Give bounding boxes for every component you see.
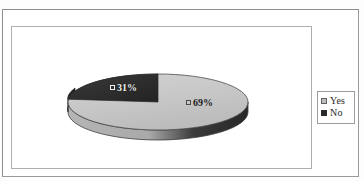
pie-chart: 31% 69%	[65, 64, 251, 144]
legend-item-no: No	[321, 107, 350, 119]
legend-swatch-yes-icon	[321, 98, 327, 104]
legend-item-yes: Yes	[321, 95, 350, 107]
legend-swatch-no-icon	[321, 110, 327, 116]
figure-outer-frame: 31% 69% Yes No	[2, 9, 359, 177]
legend-label-yes: Yes	[330, 95, 345, 107]
pie-label-no: 31%	[110, 82, 137, 93]
pie-label-no-marker	[110, 85, 115, 90]
figure-root: · · ·	[0, 0, 364, 182]
pie-label-yes-marker	[186, 100, 191, 105]
pie-label-yes-text: 69%	[193, 97, 213, 108]
pie-label-no-text: 31%	[117, 82, 137, 93]
pie-label-yes: 69%	[186, 97, 213, 108]
legend-label-no: No	[330, 107, 343, 119]
chart-legend: Yes No	[317, 91, 355, 124]
pie-chart-svg	[65, 64, 251, 144]
cropped-title-artifact: · · ·	[0, 0, 364, 8]
